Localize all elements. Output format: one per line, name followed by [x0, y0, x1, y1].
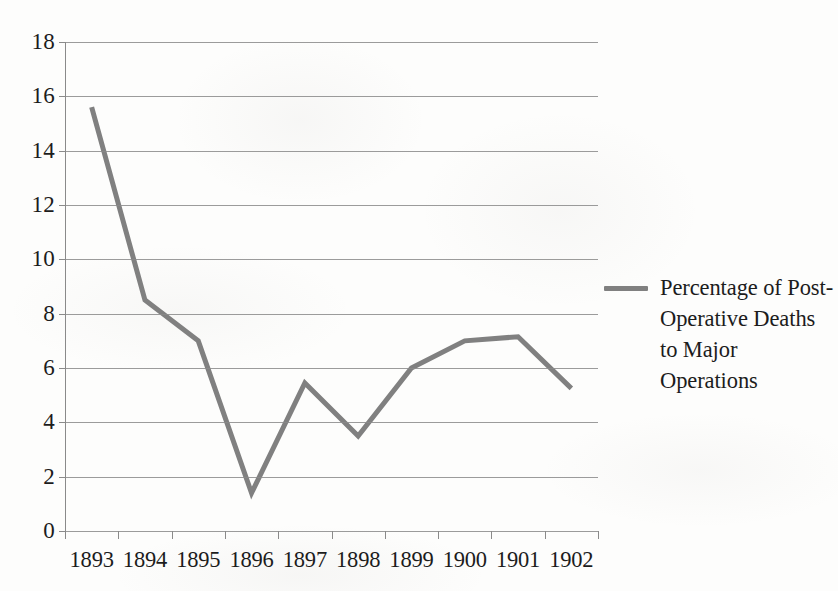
x-axis-tick [225, 531, 226, 539]
gridline [65, 368, 598, 369]
x-axis-tick-label: 1896 [225, 545, 278, 579]
x-axis-tick-label: 1893 [65, 545, 118, 579]
x-axis-tick-label: 1894 [118, 545, 171, 579]
y-axis-tick-label: 16 [9, 84, 55, 107]
gridline [65, 42, 598, 43]
y-axis-tick [59, 96, 66, 97]
y-axis-tick [59, 368, 66, 369]
y-axis-tick-labels: 024681012141618 [0, 0, 55, 591]
x-axis-tick [598, 531, 599, 539]
x-axis-tick-label: 1898 [331, 545, 384, 579]
x-axis-tick [332, 531, 333, 539]
x-axis-tick [545, 531, 546, 539]
series-polyline [92, 107, 572, 493]
y-axis-tick [59, 42, 66, 43]
series-line-post-operative-deaths [65, 42, 598, 531]
y-axis-tick [59, 259, 66, 260]
x-axis-tick-labels: 1893189418951896189718981899190019011902 [65, 545, 598, 579]
y-axis-tick-label: 2 [9, 465, 55, 488]
gridline [65, 205, 598, 206]
y-axis-tick-label: 10 [9, 247, 55, 270]
x-axis-tick-label: 1899 [385, 545, 438, 579]
legend-entry-label: Percentage of Post-Operative Deaths to M… [660, 272, 836, 396]
x-axis-tick [278, 531, 279, 539]
x-axis-tick [491, 531, 492, 539]
x-axis-tick [172, 531, 173, 539]
x-axis-tick-label: 1897 [278, 545, 331, 579]
y-axis-tick-label: 4 [9, 410, 55, 433]
y-axis-tick [59, 477, 66, 478]
y-axis-tick-label: 12 [9, 193, 55, 216]
chart-legend: Percentage of Post-Operative Deaths to M… [604, 272, 836, 396]
x-axis-tick [118, 531, 119, 539]
x-axis-tick-label: 1895 [172, 545, 225, 579]
gridline [65, 477, 598, 478]
y-axis-tick-label: 8 [9, 302, 55, 325]
x-axis-tick [385, 531, 386, 539]
y-axis-tick [59, 205, 66, 206]
y-axis-tick-label: 0 [9, 519, 55, 542]
y-axis-tick-label: 6 [9, 356, 55, 379]
gridline [65, 259, 598, 260]
y-axis-tick-label: 14 [9, 139, 55, 162]
x-axis-tick-label: 1901 [491, 545, 544, 579]
x-axis-tick [65, 531, 66, 539]
y-axis-tick-label: 18 [9, 30, 55, 53]
y-axis-tick [59, 314, 66, 315]
gridline [65, 96, 598, 97]
y-axis-tick [59, 151, 66, 152]
x-axis-tick-label: 1900 [438, 545, 491, 579]
gridline [65, 422, 598, 423]
x-axis-tick [438, 531, 439, 539]
legend-line-swatch-icon [604, 286, 648, 291]
gridline [65, 151, 598, 152]
plot-area [65, 42, 598, 531]
x-axis-tick-label: 1902 [545, 545, 598, 579]
chart-page: 024681012141618 189318941895189618971898… [0, 0, 838, 591]
line-chart: 024681012141618 189318941895189618971898… [0, 0, 620, 591]
y-axis-tick [59, 422, 66, 423]
gridline [65, 314, 598, 315]
